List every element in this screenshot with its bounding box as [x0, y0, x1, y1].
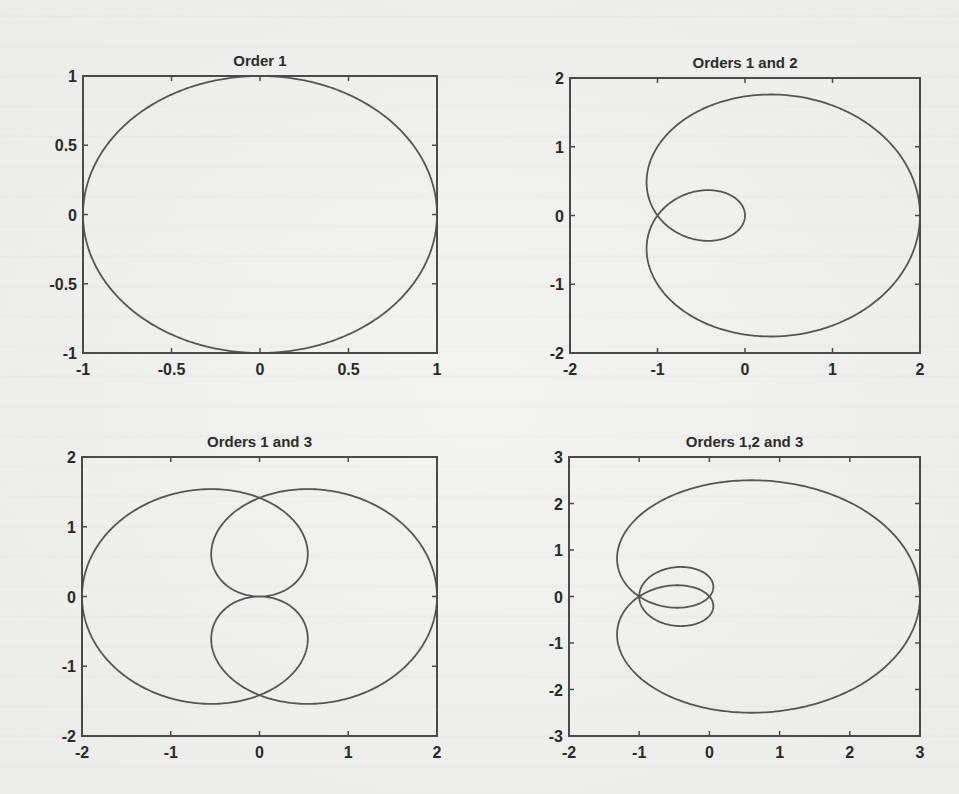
y-tick-label: 3 — [554, 449, 563, 466]
axes-frame — [83, 76, 437, 353]
x-tick-label: -1 — [650, 361, 664, 378]
x-tick-label: -2 — [563, 361, 577, 378]
x-tick-label: -1 — [76, 361, 90, 378]
x-tick-label: 1 — [433, 361, 442, 378]
y-tick-label: -2 — [549, 682, 563, 699]
y-tick-label: -1 — [63, 345, 77, 362]
y-tick-label: -1 — [549, 635, 563, 652]
y-tick-label: 1 — [555, 139, 564, 156]
y-tick-label: 1 — [67, 519, 76, 536]
x-tick-label: 2 — [916, 361, 925, 378]
y-tick-label: -2 — [62, 728, 76, 745]
subplot-title: Orders 1 and 3 — [207, 433, 312, 450]
y-tick-label: -0.5 — [49, 276, 77, 293]
y-tick-label: 0 — [67, 589, 76, 606]
y-tick-label: 2 — [67, 449, 76, 466]
fourier-curve — [82, 489, 437, 704]
x-tick-label: -2 — [562, 744, 576, 761]
x-tick-label: 1 — [775, 744, 784, 761]
x-tick-label: 1 — [344, 744, 353, 761]
x-tick-label: 0 — [705, 744, 714, 761]
x-tick-label: -1 — [632, 744, 646, 761]
y-tick-label: -1 — [550, 276, 564, 293]
x-tick-label: 1 — [828, 361, 837, 378]
y-tick-label: -3 — [549, 728, 563, 745]
axes-frame — [569, 457, 920, 736]
fourier-curve — [617, 480, 920, 712]
fourier-curve — [83, 76, 437, 353]
y-tick-label: 0 — [555, 208, 564, 225]
x-tick-label: 3 — [916, 744, 925, 761]
y-tick-label: 2 — [554, 496, 563, 513]
subplot-order-1: -1-0.500.51-1-0.500.51Order 1 — [49, 52, 441, 378]
y-tick-label: 2 — [555, 70, 564, 87]
x-tick-label: 0 — [255, 744, 264, 761]
subplot-orders-1-and-3: -2-1012-2-1012Orders 1 and 3 — [62, 433, 442, 761]
subplot-title: Order 1 — [233, 52, 286, 69]
y-tick-label: -1 — [62, 658, 76, 675]
x-tick-label: 0 — [256, 361, 265, 378]
subplot-title: Orders 1 and 2 — [692, 54, 797, 71]
y-tick-label: 1 — [554, 542, 563, 559]
x-tick-label: 2 — [433, 744, 442, 761]
subplot-orders-1-and-2: -2-1012-2-1012Orders 1 and 2 — [550, 54, 925, 378]
figure-canvas: -1-0.500.51-1-0.500.51Order 1 -2-1012-2-… — [0, 0, 959, 794]
y-tick-label: 0 — [554, 589, 563, 606]
subplot-title: Orders 1,2 and 3 — [686, 433, 804, 450]
y-tick-label: -2 — [550, 345, 564, 362]
y-tick-label: 0.5 — [55, 137, 77, 154]
x-tick-label: 0 — [741, 361, 750, 378]
x-tick-label: -2 — [75, 744, 89, 761]
x-tick-label: -1 — [164, 744, 178, 761]
x-tick-label: 2 — [845, 744, 854, 761]
x-tick-label: -0.5 — [158, 361, 186, 378]
y-tick-label: 0 — [68, 207, 77, 224]
subplot-orders-1-2-and-3: -2-10123-3-2-10123Orders 1,2 and 3 — [549, 433, 925, 761]
fourier-curve — [647, 94, 920, 336]
y-tick-label: 1 — [68, 68, 77, 85]
x-tick-label: 0.5 — [337, 361, 359, 378]
